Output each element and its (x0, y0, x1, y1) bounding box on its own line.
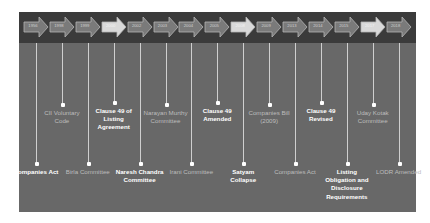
connector-line (114, 43, 115, 101)
event-label: Companies Bill (2009) (245, 109, 293, 125)
year-arrow-4: 2002 (127, 16, 153, 38)
year-arrow-8: 2008 (230, 16, 256, 38)
event-marker (242, 162, 246, 166)
year-label: 2008 (231, 23, 249, 28)
year-arrow-10: 2013 (282, 16, 308, 38)
event-label: Clause 49 Amended (193, 107, 241, 123)
event-marker (139, 162, 143, 166)
year-arrow-6: 2004 (178, 16, 204, 38)
year-label: 2009 (257, 23, 275, 28)
year-label: 1956 (24, 23, 42, 28)
year-label: 2018 (387, 23, 405, 28)
year-arrow-1: 1998 (49, 16, 75, 38)
year-arrow-2: 1999 (75, 16, 101, 38)
event-marker (268, 103, 272, 107)
connector-line (321, 43, 322, 101)
connector-line (166, 43, 167, 103)
year-label: 1999 (76, 23, 94, 28)
connector-line (373, 43, 374, 103)
year-arrow-12: 2015 (334, 16, 360, 38)
event-label: Companies Act (12, 168, 60, 176)
event-label: Naresh Chandra Committee (116, 168, 164, 184)
event-marker (87, 162, 91, 166)
year-label: 2013 (283, 23, 301, 28)
year-label: 2017 (361, 23, 379, 28)
event-label: Satyam Collapse (219, 168, 267, 184)
connector-line (62, 43, 63, 103)
connector-line (243, 43, 244, 162)
year-arrow-5: 2003 (153, 16, 179, 38)
event-marker (372, 103, 376, 107)
event-marker (61, 103, 65, 107)
event-label: CII Voluntary Code (38, 109, 86, 125)
event-label: Clause 49 of Listing Agreement (90, 107, 138, 132)
connector-line (295, 43, 296, 162)
event-label: Listing Obligation and Disclosure Requir… (323, 168, 371, 201)
connector-line (269, 43, 270, 103)
event-label: LODR Amended (375, 168, 423, 176)
event-label: Clause 49 Revised (297, 107, 345, 123)
year-arrow-0: 1956 (23, 16, 49, 38)
event-marker (35, 162, 39, 166)
connector-line (88, 43, 89, 162)
connector-line (399, 43, 400, 162)
event-marker (216, 101, 220, 105)
year-label: 2003 (154, 23, 172, 28)
event-label: Irani Committee (167, 168, 215, 176)
year-label: 1998 (50, 23, 68, 28)
connector-line (36, 43, 37, 162)
year-arrow-14: 2018 (386, 16, 412, 38)
year-label: 2014 (309, 23, 327, 28)
event-label: Companies Act (271, 168, 319, 176)
event-marker (190, 162, 194, 166)
year-label: 2002 (128, 23, 146, 28)
event-label: Birla Committee (64, 168, 112, 176)
event-marker (113, 101, 117, 105)
event-marker (398, 162, 402, 166)
event-label: Narayan Murthy Committee (142, 109, 190, 125)
event-marker (165, 103, 169, 107)
year-arrow-13: 2017 (360, 16, 386, 38)
event-marker (294, 162, 298, 166)
year-label: 2005 (205, 23, 223, 28)
year-label: 2004 (179, 23, 197, 28)
connector-line (191, 43, 192, 162)
year-arrow-11: 2014 (308, 16, 334, 38)
year-label: 2015 (335, 23, 353, 28)
connector-line (217, 43, 218, 101)
year-label: 2000 (102, 23, 120, 28)
event-label: Uday Kotak Committee (349, 109, 397, 125)
connector-line (347, 43, 348, 162)
year-arrow-7: 2005 (204, 16, 230, 38)
event-marker (320, 101, 324, 105)
year-arrow-9: 2009 (256, 16, 282, 38)
event-marker (346, 162, 350, 166)
connector-line (140, 43, 141, 162)
year-arrow-3: 2000 (101, 16, 127, 38)
